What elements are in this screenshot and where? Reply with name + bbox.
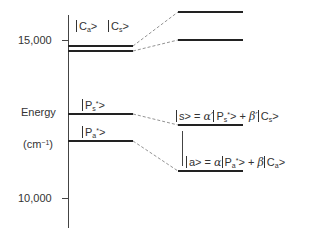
beta-prime: β′ (249, 110, 258, 123)
ps-ket: Ps*> (213, 110, 236, 122)
label-ket-ca: Ca> (76, 20, 97, 36)
connector-pa-a (133, 141, 178, 171)
ket-bar: Ca> (76, 20, 97, 32)
cs-ket: Cs> (258, 110, 279, 122)
tick-label-10000: 10,000 (18, 192, 52, 204)
unit-close: ) (49, 138, 53, 150)
tick-label-15000: 15,000 (18, 34, 52, 46)
connector-ps-s (133, 114, 178, 125)
ca-ket: Ca> (264, 156, 285, 168)
alpha: α (214, 156, 221, 169)
a-ket: a> = (186, 156, 214, 168)
plus: + (245, 156, 258, 168)
pa-ket: Pa*> (222, 156, 245, 168)
plus: + (236, 110, 249, 122)
label-ket-cs: Cs> (108, 20, 129, 36)
label-ket-ps: Ps*> (82, 98, 105, 115)
s-ket: s> = (176, 110, 203, 122)
ket-bar: Cs> (108, 20, 129, 32)
connector-cs-upper (133, 40, 178, 51)
axis-label-energy: Energy (21, 106, 56, 118)
connector-ca-upper (133, 12, 178, 46)
ket-bar: Pa*> (82, 126, 105, 138)
label-ket-pa: Pa*> (82, 125, 105, 142)
ket-bar: Ps*> (82, 99, 105, 111)
axis-label-unit: (cm−1) (23, 137, 53, 150)
label-s-state: s> = α′Ps*> + β′Cs> (176, 109, 279, 126)
label-a-state: a> = αPa*> + βCa> (186, 155, 285, 172)
unit-cm: (cm (23, 138, 41, 150)
beta: β (257, 156, 263, 169)
alpha-prime: α′ (203, 110, 213, 123)
